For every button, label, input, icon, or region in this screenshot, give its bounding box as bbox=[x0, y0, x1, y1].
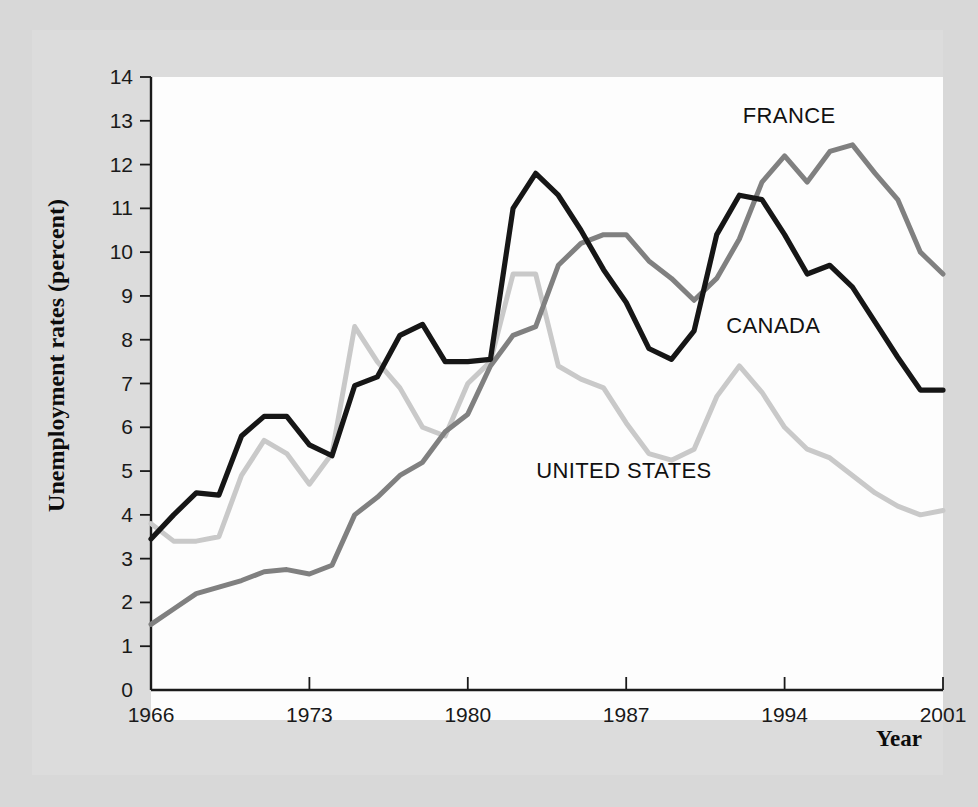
y-tick-label: 10 bbox=[110, 240, 133, 263]
x-tick-label: 1973 bbox=[286, 703, 333, 726]
y-tick-label: 11 bbox=[111, 196, 133, 219]
series-annotation-france: FRANCE bbox=[743, 103, 836, 128]
y-tick-label: 1 bbox=[121, 634, 133, 657]
series-line-france bbox=[151, 145, 943, 624]
y-tick-label: 0 bbox=[121, 678, 133, 701]
axis-ticks bbox=[140, 77, 943, 690]
page-root: 0123456789101112131419661973198019871994… bbox=[0, 0, 978, 807]
x-axis-title: Year bbox=[876, 726, 922, 751]
series-lines bbox=[151, 145, 943, 624]
y-tick-label: 14 bbox=[110, 65, 134, 88]
y-tick-label: 8 bbox=[121, 328, 133, 351]
figure-panel: 0123456789101112131419661973198019871994… bbox=[32, 30, 943, 775]
series-annotation-canada: CANADA bbox=[726, 313, 820, 338]
x-tick-label: 1994 bbox=[761, 703, 808, 726]
y-tick-label: 4 bbox=[121, 503, 133, 526]
series-line-canada bbox=[151, 173, 943, 539]
y-tick-label: 3 bbox=[121, 547, 133, 570]
y-tick-label: 13 bbox=[110, 109, 133, 132]
y-tick-label: 5 bbox=[121, 459, 133, 482]
y-tick-label: 6 bbox=[121, 415, 133, 438]
x-tick-label: 1966 bbox=[128, 703, 175, 726]
series-line-united-states bbox=[151, 274, 943, 541]
y-axis-title-wrap: Unemployment rates (percent) bbox=[36, 30, 76, 680]
y-tick-label: 2 bbox=[121, 590, 133, 613]
tick-labels: 0123456789101112131419661973198019871994… bbox=[110, 65, 967, 726]
x-tick-label: 1987 bbox=[603, 703, 650, 726]
y-tick-label: 12 bbox=[110, 153, 133, 176]
y-tick-label: 7 bbox=[121, 372, 133, 395]
unemployment-line-chart: 0123456789101112131419661973198019871994… bbox=[32, 30, 943, 775]
y-tick-label: 9 bbox=[121, 284, 133, 307]
y-axis-title: Unemployment rates (percent) bbox=[43, 199, 70, 512]
axis-lines bbox=[151, 77, 943, 690]
x-tick-label: 2001 bbox=[920, 703, 967, 726]
series-annotation-united-states: UNITED STATES bbox=[536, 458, 712, 483]
x-tick-label: 1980 bbox=[444, 703, 491, 726]
